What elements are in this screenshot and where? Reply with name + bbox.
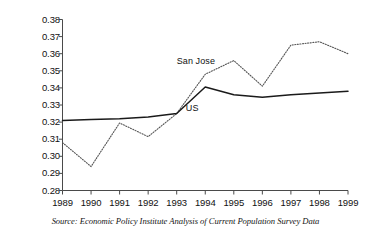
series-label-us: US	[186, 103, 199, 113]
plot-area	[0, 0, 371, 237]
source-caption: Source: Economic Policy Institute Analys…	[0, 216, 371, 227]
series-label-san-jose: San Jose	[177, 56, 215, 66]
gini-coefficient-line-chart: Gini co-efficient 0.280.290.300.310.320.…	[0, 0, 371, 237]
series-line-us	[63, 87, 349, 120]
